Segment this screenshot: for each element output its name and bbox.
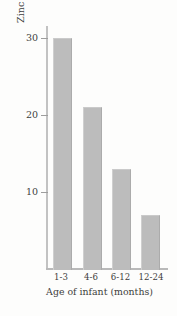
y-axis-line — [46, 26, 48, 270]
x-tick-label-12-24: 12-24 — [133, 273, 169, 282]
y-tick-label-10: 10 — [10, 187, 38, 197]
y-tick-mark-10 — [41, 192, 48, 193]
y-tick-mark-20 — [41, 115, 48, 116]
x-tick-label-1-3: 1-3 — [45, 273, 77, 282]
x-axis-title: Age of infant (months) — [0, 286, 177, 297]
plot-area: 10 20 30 1-3 4-6 6-12 12-24 Age of infan… — [0, 0, 177, 316]
bar-6-12 — [112, 169, 131, 270]
y-tick-label-30: 30 — [10, 33, 38, 43]
bar-12-24 — [141, 215, 160, 270]
bar-1-3 — [53, 38, 72, 270]
y-tick-label-20: 20 — [10, 110, 38, 120]
y-tick-mark-30 — [41, 38, 48, 39]
bar-chart-figure: Zinc intake (mg/day) 10 20 30 1-3 4-6 6-… — [0, 0, 177, 316]
bar-4-6 — [83, 107, 102, 270]
x-tick-label-4-6: 4-6 — [75, 273, 107, 282]
